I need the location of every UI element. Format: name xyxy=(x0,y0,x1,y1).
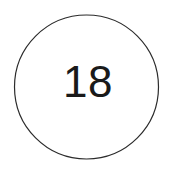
badge-number-label: 18 xyxy=(63,57,113,106)
numbered-circle-badge: 18 xyxy=(0,0,174,175)
badge-canvas: 18 xyxy=(0,0,174,175)
